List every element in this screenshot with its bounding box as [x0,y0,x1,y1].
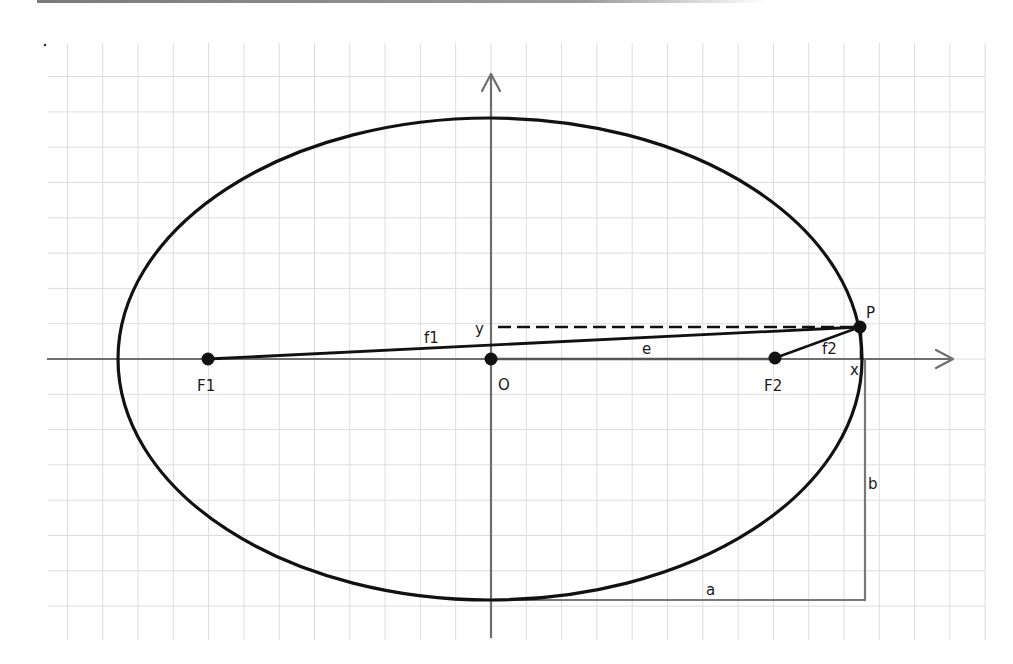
label-origin: O [498,376,510,394]
label-f1-distance: f1 [424,329,439,347]
corner-dot [44,44,47,47]
label-y: y [475,320,484,338]
focus-f1-point [202,353,215,366]
top-rule [37,0,767,3]
f1-line [208,327,860,359]
origin-point [485,353,498,366]
label-e: e [642,340,651,358]
point-p [854,321,867,334]
label-a: a [706,581,715,599]
label-p: P [866,304,875,322]
label-f2-distance: f2 [822,340,837,358]
label-f1-focus: F1 [197,377,215,395]
label-b: b [868,475,878,493]
focus-f2-point [769,352,782,365]
grid [48,43,985,640]
label-f2-focus: F2 [764,377,782,395]
label-x: x [850,361,859,379]
ellipse-diagram: F1 O F2 P x y f1 e f2 a b [0,0,1013,664]
